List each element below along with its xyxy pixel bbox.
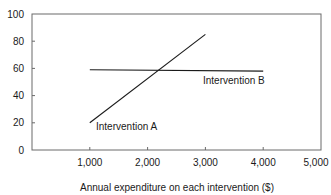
x-tick-label: 1,000 xyxy=(77,157,102,168)
y-tick-label: 40 xyxy=(13,90,25,101)
series-line-intervention-a xyxy=(90,34,206,122)
y-tick-labels: 0 20 40 60 80 100 xyxy=(7,9,24,156)
y-tick-label: 20 xyxy=(13,117,25,128)
y-tick-label: 100 xyxy=(7,9,24,20)
y-tick-label: 80 xyxy=(13,36,25,47)
x-tick-label: 3,000 xyxy=(193,157,218,168)
series-label-intervention-b: Intervention B xyxy=(203,75,265,86)
x-tick-label: 5,000 xyxy=(303,157,328,168)
y-tick-label: 0 xyxy=(18,145,24,156)
plot-frame xyxy=(32,14,321,150)
x-tick-label: 2,000 xyxy=(135,157,160,168)
x-tick-label: 4,000 xyxy=(251,157,276,168)
x-axis-title: Annual expenditure on each intervention … xyxy=(80,182,274,193)
series-label-intervention-a: Intervention A xyxy=(96,121,157,132)
x-tick-labels: 1,000 2,000 3,000 4,000 5,000 xyxy=(77,157,329,168)
y-tick-label: 60 xyxy=(13,63,25,74)
series-line-intervention-b xyxy=(90,70,263,71)
chart: 0 20 40 60 80 100 1,000 2,000 3,000 4,00… xyxy=(0,0,331,195)
